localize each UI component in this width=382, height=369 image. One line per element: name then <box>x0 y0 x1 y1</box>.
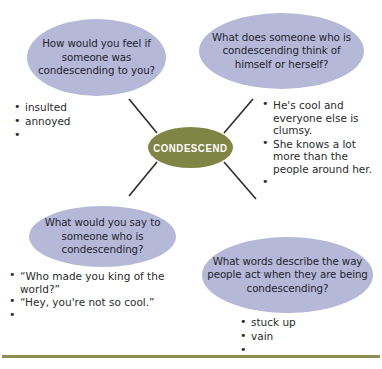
question-oval-top-right[interactable]: What does someone who is condescending t… <box>199 13 364 89</box>
answer-items-top-right: He's cool and everyone else is clumsy.Sh… <box>262 99 380 186</box>
answer-item: vain <box>240 330 360 343</box>
answer-item: “Hey, you're not so cool.” <box>9 296 184 309</box>
question-text-bottom-right: What words describe the way people act w… <box>202 255 373 295</box>
center-word-oval[interactable]: CONDESCEND <box>148 127 233 168</box>
answer-item: She knows a lot more than the people aro… <box>262 138 380 176</box>
footer-rule <box>2 355 380 358</box>
answer-list-bottom-left[interactable]: “Who made you king of the world?”“Hey, y… <box>9 270 184 320</box>
answer-item: stuck up <box>240 316 360 329</box>
answer-item <box>240 344 360 353</box>
question-text-top-right: What does someone who is condescending t… <box>199 31 364 71</box>
answer-items-bottom-right: stuck upvain <box>240 316 360 353</box>
connector-line-bottom-right <box>224 162 256 199</box>
answer-item: annoyed <box>14 115 134 128</box>
answer-item: insulted <box>14 101 134 114</box>
answer-list-bottom-right[interactable]: stuck upvain <box>240 316 360 354</box>
answer-list-top-right[interactable]: He's cool and everyone else is clumsy.Sh… <box>262 99 380 187</box>
center-word-label: CONDESCEND <box>153 142 227 154</box>
answer-items-top-left: insultedannoyed <box>14 101 134 138</box>
answer-item <box>9 310 184 319</box>
answer-items-bottom-left: “Who made you king of the world?”“Hey, y… <box>9 270 184 319</box>
question-text-top-left: How would you feel if someone was condes… <box>27 37 166 77</box>
answer-item <box>262 177 380 186</box>
word-web-worksheet: How would you feel if someone was condes… <box>0 0 382 369</box>
question-oval-top-left[interactable]: How would you feel if someone was condes… <box>27 19 166 96</box>
question-oval-bottom-left[interactable]: What would you say to someone who is con… <box>29 206 176 267</box>
answer-item: “Who made you king of the world?” <box>9 270 184 295</box>
connector-line-bottom-left <box>129 162 157 196</box>
answer-item <box>14 129 134 138</box>
question-oval-bottom-right[interactable]: What words describe the way people act w… <box>202 237 373 313</box>
answer-list-top-left[interactable]: insultedannoyed <box>14 101 134 139</box>
connector-line-top-right <box>224 99 253 133</box>
question-text-bottom-left: What would you say to someone who is con… <box>29 216 176 256</box>
answer-item: He's cool and everyone else is clumsy. <box>262 99 380 137</box>
